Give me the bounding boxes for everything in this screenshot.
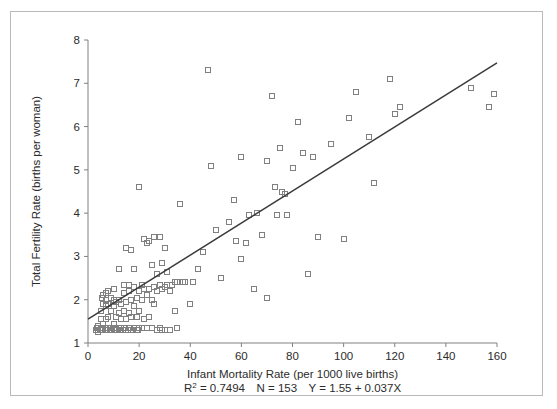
- x-axis-tick-label: 40: [184, 350, 197, 362]
- scatter-point: [252, 286, 257, 291]
- scatter-point: [119, 317, 124, 322]
- x-axis-tick-label: 120: [385, 350, 404, 362]
- scatter-point: [290, 165, 295, 170]
- scatter-point: [195, 267, 200, 272]
- scatter-point: [178, 202, 183, 207]
- y-axis-tick-label: 6: [74, 121, 80, 133]
- scatter-point: [132, 267, 137, 272]
- scatter-point: [149, 325, 154, 330]
- x-axis-tick-label: 20: [133, 350, 146, 362]
- scatter-point: [134, 295, 139, 300]
- scatter-point: [111, 286, 116, 291]
- scatter-point: [310, 154, 315, 159]
- scatter-point: [206, 68, 211, 73]
- x-axis-title: Infant Mortality Rate (per 1000 live bir…: [187, 368, 398, 380]
- scatter-point: [167, 289, 172, 294]
- scatter-point: [234, 239, 239, 244]
- scatter-point: [239, 154, 244, 159]
- scatter-point: [244, 241, 249, 246]
- scatter-point: [190, 280, 195, 285]
- scatter-point: [487, 105, 492, 110]
- scatter-point: [392, 111, 397, 116]
- x-axis-tick-label: 80: [286, 350, 299, 362]
- y-axis-title: Total Fertility Rate (births per woman): [30, 96, 42, 287]
- scatter-point: [469, 85, 474, 90]
- scatter-point: [226, 219, 231, 224]
- x-axis-tick-label: 140: [436, 350, 455, 362]
- scatter-point: [239, 256, 244, 261]
- scatter-point: [116, 267, 121, 272]
- scatter-point: [341, 237, 346, 242]
- scatter-point: [157, 234, 162, 239]
- scatter-point: [124, 317, 129, 322]
- scatter-point: [387, 76, 392, 81]
- scatter-point: [300, 150, 305, 155]
- scatter-point: [162, 245, 167, 250]
- scatter-point: [492, 92, 497, 97]
- scatter-point: [231, 198, 236, 203]
- scatter-point: [264, 159, 269, 164]
- scatter-point: [144, 293, 149, 298]
- scatter-point: [129, 297, 134, 302]
- scatter-point: [367, 135, 372, 140]
- scatter-point: [328, 141, 333, 146]
- scatter-point: [270, 94, 275, 99]
- scatter-point: [139, 297, 144, 302]
- y-axis-tick-label: 7: [74, 77, 80, 89]
- scatter-point: [142, 317, 147, 322]
- scatter-point: [397, 105, 402, 110]
- y-axis-tick-label: 5: [74, 164, 80, 176]
- scatter-point: [277, 146, 282, 151]
- scatter-point: [129, 247, 134, 252]
- scatter-point: [124, 299, 129, 304]
- figure-root: 12345678020406080100120140160Infant Mort…: [0, 0, 557, 409]
- scatter-point: [285, 213, 290, 218]
- scatter-point: [144, 325, 149, 330]
- scatter-point: [149, 263, 154, 268]
- scatter-point: [152, 234, 157, 239]
- scatter-point: [305, 271, 310, 276]
- scatter-point: [213, 228, 218, 233]
- scatter-point: [137, 289, 142, 294]
- scatter-point: [346, 115, 351, 120]
- scatter-point: [201, 250, 206, 255]
- scatter-point: [259, 232, 264, 237]
- scatter-point: [137, 185, 142, 190]
- y-axis-tick-label: 2: [74, 294, 80, 306]
- y-axis-tick-label: 4: [74, 207, 81, 219]
- scatter-point: [354, 89, 359, 94]
- scatter-point: [264, 295, 269, 300]
- scatter-point: [137, 308, 142, 313]
- y-axis-tick-label: 3: [74, 250, 80, 262]
- scatter-point: [172, 308, 177, 313]
- scatter-point: [160, 260, 165, 265]
- x-axis-tick-label: 60: [235, 350, 248, 362]
- scatter-point: [121, 282, 126, 287]
- trend-line: [88, 63, 497, 319]
- y-axis-tick-label: 1: [74, 337, 80, 349]
- scatter-point: [147, 315, 152, 320]
- scatter-point: [134, 315, 139, 320]
- scatter-point: [316, 234, 321, 239]
- x-axis-tick-label: 0: [85, 350, 91, 362]
- scatter-point: [126, 282, 131, 287]
- regression-stats-annotation: R2 = 0.7494 N = 153 Y = 1.55 + 0.037X: [184, 381, 401, 394]
- scatter-point: [208, 163, 213, 168]
- scatter-point: [218, 276, 223, 281]
- scatter-point: [132, 304, 137, 309]
- scatter-point: [372, 180, 377, 185]
- scatter-point: [275, 213, 280, 218]
- scatter-plot-chart: 12345678020406080100120140160Infant Mort…: [0, 0, 557, 409]
- scatter-point: [147, 286, 152, 291]
- scatter-point: [188, 302, 193, 307]
- scatter-point: [272, 185, 277, 190]
- scatter-point: [175, 325, 180, 330]
- scatter-point: [121, 308, 126, 313]
- x-axis-tick-label: 160: [487, 350, 506, 362]
- scatter-point: [124, 245, 129, 250]
- scatter-point: [167, 328, 172, 333]
- scatter-point: [295, 120, 300, 125]
- y-axis-tick-label: 8: [74, 34, 80, 46]
- x-axis-tick-label: 100: [334, 350, 353, 362]
- scatter-points-group: [93, 68, 497, 335]
